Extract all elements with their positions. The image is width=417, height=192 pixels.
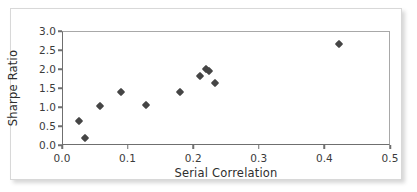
- data-point: [117, 87, 125, 95]
- data-point: [75, 116, 83, 124]
- data-point: [142, 100, 150, 108]
- data-point: [95, 101, 103, 109]
- data-point: [205, 67, 213, 75]
- y-axis-label: Sharpe Ratio: [6, 50, 20, 126]
- data-point: [210, 79, 218, 87]
- data-point: [196, 71, 204, 79]
- x-axis-label: Serial Correlation: [62, 166, 390, 180]
- plot-area: [62, 31, 390, 145]
- data-point: [81, 134, 89, 142]
- data-point: [335, 40, 343, 48]
- data-point: [176, 88, 184, 96]
- figure-container: 0.00.51.01.52.02.53.0 0.00.10.20.30.40.5…: [0, 0, 417, 192]
